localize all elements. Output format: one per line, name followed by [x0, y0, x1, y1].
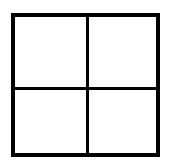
grid-cell-top-left [15, 17, 86, 87]
two-by-two-grid [11, 13, 160, 157]
grid-cell-bottom-left [15, 90, 86, 153]
grid-cell-bottom-right [89, 90, 156, 153]
grid-cell-top-right [89, 17, 156, 87]
vertical-divider [86, 17, 89, 153]
horizontal-divider [15, 87, 156, 90]
